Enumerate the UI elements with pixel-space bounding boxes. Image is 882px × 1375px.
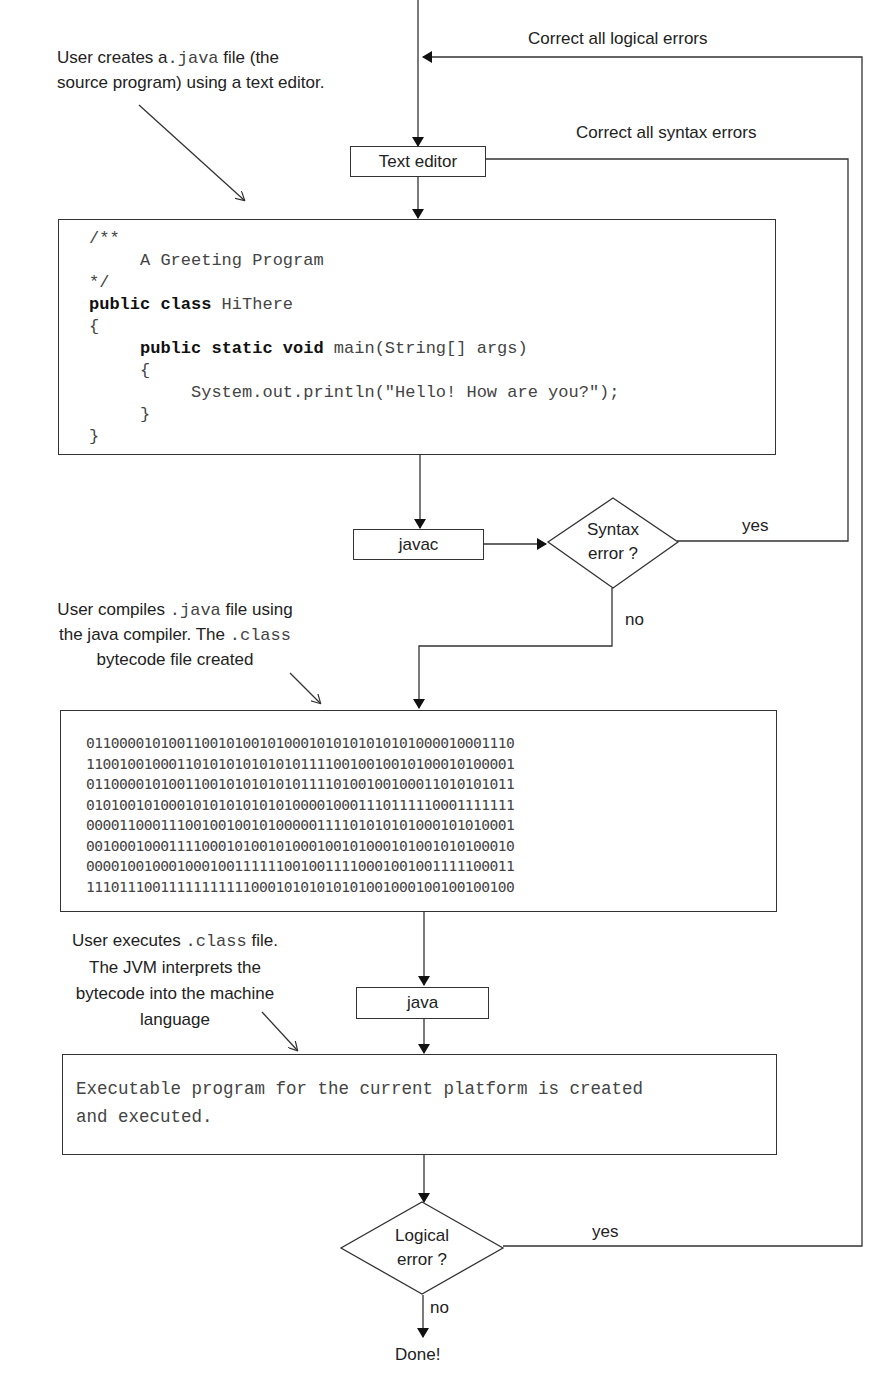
- text-editor-label: Text editor: [379, 152, 457, 172]
- bytecode-line: 0000110001110010010010100000111101010101…: [86, 815, 514, 836]
- code-line: A Greeting Program: [89, 250, 620, 272]
- source-code-box: /** A Greeting Program*/public class HiT…: [58, 219, 776, 455]
- annotation-create-line2: source program) using a text editor.: [57, 71, 417, 95]
- syntax-yes-label: yes: [742, 514, 768, 538]
- source-code: /** A Greeting Program*/public class HiT…: [89, 228, 620, 448]
- annotation-create: User creates a.java file (the source pro…: [57, 46, 417, 95]
- code-line: System.out.println("Hello! How are you?"…: [89, 382, 620, 404]
- logical-no-label: no: [430, 1296, 449, 1320]
- bytecode-line: 1100100100011010101010101011110010010010…: [86, 754, 514, 775]
- syntax-no-label: no: [625, 608, 644, 632]
- annotation-execute: User executes .class file. The JVM inter…: [20, 928, 330, 1033]
- code-line: /**: [89, 228, 620, 250]
- bytecode-line: 0101001010001010101010101000010001110111…: [86, 795, 514, 816]
- done-label: Done!: [395, 1343, 440, 1367]
- code-line: }: [89, 426, 620, 448]
- annotation-compile: User compiles .java file using the java …: [15, 598, 335, 672]
- code-line: */: [89, 272, 620, 294]
- syntax-decision-text: Syntax error ?: [563, 518, 663, 566]
- code-line: }: [89, 404, 620, 426]
- bytecode-line: 0110000101001100101001010001010101010101…: [86, 733, 514, 754]
- executable-text: Executable program for the current platf…: [76, 1075, 643, 1131]
- code-line: public static void main(String[] args): [89, 338, 620, 360]
- logical-yes-label: yes: [592, 1220, 618, 1244]
- bytecode-line: 0110000101001100101010101011110100100100…: [86, 774, 514, 795]
- loop-label-syntax: Correct all syntax errors: [576, 121, 756, 145]
- javac-node: javac: [353, 529, 484, 560]
- flow-connectors: [0, 0, 882, 1375]
- bytecode-box: 0110000101001100101001010001010101010101…: [60, 710, 777, 912]
- code-line: {: [89, 360, 620, 382]
- javac-label: javac: [399, 535, 439, 555]
- executable-box: Executable program for the current platf…: [62, 1054, 777, 1155]
- bytecode: 0110000101001100101001010001010101010101…: [86, 733, 514, 897]
- code-line: public class HiThere: [89, 294, 620, 316]
- text-editor-node: Text editor: [350, 146, 486, 177]
- logical-decision-text: Logical error ?: [372, 1224, 472, 1272]
- annotation-create-line1: User creates a.java file (the: [57, 46, 417, 71]
- loop-label-logical: Correct all logical errors: [528, 27, 708, 51]
- java-node: java: [356, 987, 489, 1019]
- bytecode-line: 1110111001111111111100010101010101001000…: [86, 877, 514, 898]
- code-line: {: [89, 316, 620, 338]
- java-label: java: [407, 993, 438, 1013]
- bytecode-line: 0000100100010001001111110010011110001001…: [86, 856, 514, 877]
- bytecode-line: 0010001000111100010100101000100101000101…: [86, 836, 514, 857]
